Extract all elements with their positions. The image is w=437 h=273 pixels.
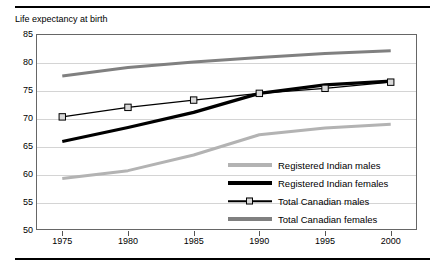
legend-label: Total Canadian females [278, 214, 377, 225]
legend-item: Total Canadian males [228, 192, 408, 210]
legend-swatch [228, 158, 272, 172]
legend-swatch [228, 212, 272, 226]
y-axis-tick-label: 85 [3, 30, 33, 39]
y-axis-tick-label: 60 [3, 170, 33, 179]
legend-label: Registered Indian males [278, 160, 380, 171]
x-axis-tick-label: 1995 [300, 237, 350, 246]
legend-item: Total Canadian females [228, 210, 408, 228]
legend-line [228, 181, 272, 185]
data-point-marker [388, 79, 394, 85]
y-axis-tick-label: 50 [3, 226, 33, 235]
top-rule [15, 6, 430, 8]
y-axis-tick-label: 80 [3, 58, 33, 67]
chart-legend: Registered Indian malesRegistered Indian… [228, 156, 408, 228]
legend-line [228, 163, 272, 167]
x-axis-tick-label: 1975 [37, 237, 87, 246]
legend-label: Registered Indian females [278, 178, 388, 189]
bottom-rule [15, 258, 430, 260]
data-point-marker [322, 85, 328, 91]
y-axis-tick-label: 75 [3, 86, 33, 95]
x-axis-tick-label: 1985 [169, 237, 219, 246]
x-axis: 197519801985199019952000 [36, 237, 417, 251]
x-axis-tick-label: 1980 [103, 237, 153, 246]
series-line [62, 81, 390, 141]
legend-item: Registered Indian females [228, 174, 408, 192]
legend-swatch [228, 176, 272, 190]
x-axis-tick-label: 2000 [366, 237, 416, 246]
y-axis-tick-label: 55 [3, 198, 33, 207]
data-point-marker [125, 104, 131, 110]
y-axis-tick-label: 70 [3, 114, 33, 123]
series-line [62, 51, 390, 76]
chart-title: Life expectancy at birth [15, 14, 108, 25]
series-line [62, 82, 390, 117]
data-point-marker [59, 114, 65, 120]
data-point-marker [256, 90, 262, 96]
legend-swatch [228, 194, 272, 208]
y-axis-tick-label: 65 [3, 142, 33, 151]
chart-figure: Life expectancy at birth 505560657075808… [0, 0, 437, 273]
data-point-marker [190, 97, 196, 103]
x-axis-tick-label: 1990 [234, 237, 284, 246]
legend-item: Registered Indian males [228, 156, 408, 174]
legend-label: Total Canadian males [278, 196, 369, 207]
legend-marker-icon [246, 198, 253, 205]
y-axis: 5055606570758085 [0, 34, 33, 230]
legend-line [228, 217, 272, 221]
